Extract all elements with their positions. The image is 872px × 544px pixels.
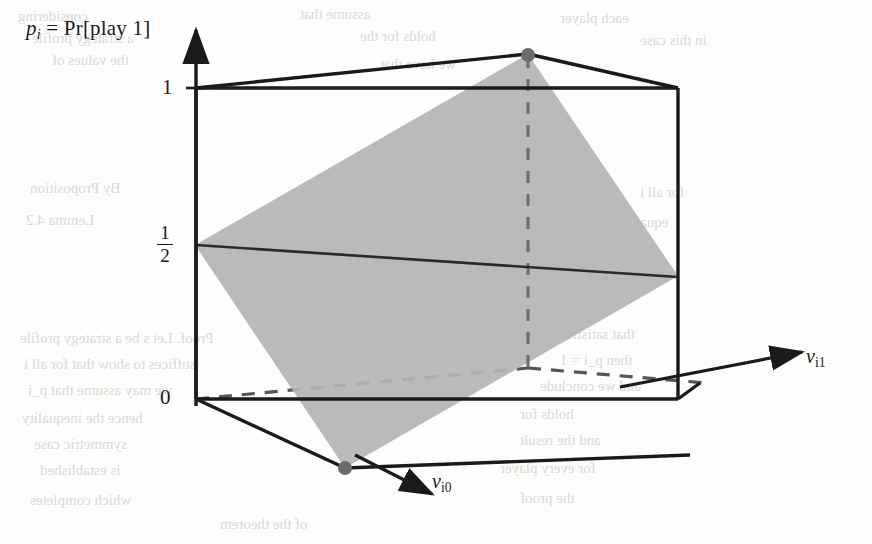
half-numerator: 1 (157, 223, 173, 243)
vi1-subscript: i1 (815, 355, 826, 370)
cube-edge-bottom-right-short (678, 383, 700, 399)
vi0-subscript: i0 (441, 480, 452, 495)
half-denominator: 2 (157, 246, 173, 266)
y-axis-caption: pi = Pr[play 1] (26, 16, 150, 43)
cube-edge-bottom-near (345, 455, 690, 468)
caption-pr-play-1: Pr[play 1] (64, 16, 151, 40)
y-tick-label-zero: 0 (160, 385, 171, 410)
vi1-axis-arrow (620, 352, 802, 387)
y-tick-label-one: 1 (162, 75, 173, 100)
caption-p-symbol: p (26, 16, 37, 40)
axis-label-vi0: vi0 (432, 470, 451, 496)
vi1-v-symbol: v (806, 345, 815, 367)
vi0-axis-arrow (355, 455, 432, 494)
y-tick-label-half: 1 2 (157, 223, 173, 266)
marker-bottom-front-vertex (338, 461, 352, 475)
cube-plane-diagram (0, 0, 872, 544)
caption-equals: = (41, 16, 64, 40)
cube-edge-top-back-right (528, 54, 678, 88)
vi0-v-symbol: v (432, 470, 441, 492)
figure-page: consideringassume thateach playera strat… (0, 0, 872, 544)
axis-label-vi1: vi1 (806, 345, 825, 371)
marker-top-back-vertex (521, 48, 535, 62)
